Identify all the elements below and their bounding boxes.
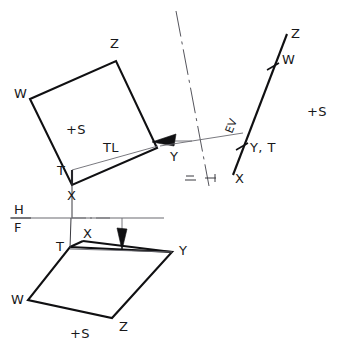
top-view-quadrilateral: [30, 61, 157, 185]
edge-view-label-EV: EV: [223, 116, 240, 135]
edge-view-label-YT: Y, T: [249, 140, 276, 155]
edge-view-group: Z W Y, T X EV +S: [223, 26, 327, 186]
front-view-label-W: W: [11, 292, 24, 307]
projection-figure-svg: W Z Y X T TL +S: [0, 0, 344, 353]
edge-view-label-Z: Z: [291, 26, 300, 41]
front-view-label-T: T: [55, 239, 64, 254]
top-view-marker-S: +S: [66, 122, 86, 137]
front-view-marker-S: +S: [70, 326, 90, 341]
top-view-label-Z: Z: [110, 36, 119, 51]
front-view-label-Y: Y: [178, 243, 187, 258]
top-view-label-Y: Y: [169, 149, 178, 164]
fold-label-F: F: [14, 220, 22, 235]
top-view-label-T: T: [56, 163, 65, 178]
front-view-group: T X Y Z W +S: [11, 218, 187, 341]
auxiliary-center-line: [176, 11, 209, 186]
technical-drawing-canvas: W Z Y X T TL +S: [0, 0, 344, 353]
top-view-label-X: X: [67, 188, 76, 203]
edge-view-label-X: X: [235, 171, 244, 186]
top-view-label-TL: TL: [102, 140, 119, 155]
projector-t-front-vertical: [70, 218, 71, 248]
top-view-group: W Z Y X T TL +S: [14, 36, 178, 218]
edge-view-label-W: W: [282, 52, 295, 67]
front-view-quadrilateral: [28, 247, 172, 318]
fold-label-H: H: [14, 202, 24, 217]
front-view-label-Z: Z: [119, 319, 128, 334]
front-view-label-X: X: [83, 226, 92, 241]
front-view-edge-t-x: [70, 241, 83, 247]
edge-view-marker-S: +S: [307, 104, 327, 119]
h-ev-fold-mark-group: [185, 174, 216, 182]
top-view-label-W: W: [14, 86, 27, 101]
